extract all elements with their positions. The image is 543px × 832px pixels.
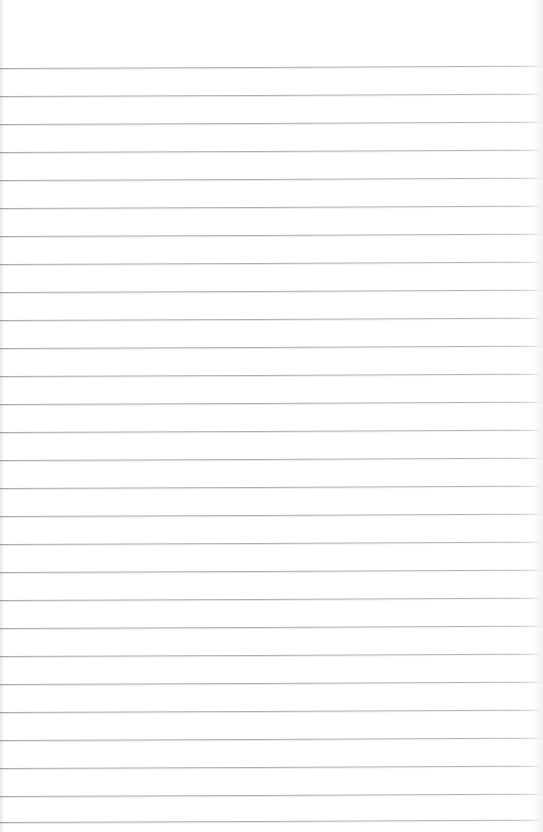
rule-line <box>0 150 543 153</box>
rule-line <box>0 570 543 573</box>
rule-line <box>0 514 543 517</box>
rule-line <box>0 542 543 545</box>
rule-line <box>0 290 543 293</box>
rule-line <box>0 766 543 769</box>
rule-line <box>0 66 543 69</box>
rule-line <box>0 346 543 349</box>
rule-line <box>0 820 543 823</box>
rule-line <box>0 738 543 741</box>
rule-line <box>0 682 543 685</box>
rule-line <box>0 94 543 97</box>
rule-line <box>0 318 543 321</box>
rule-line <box>0 374 543 377</box>
rule-line <box>0 206 543 209</box>
rule-line <box>0 598 543 601</box>
rule-line <box>0 234 543 237</box>
rule-line <box>0 122 543 125</box>
rule-line <box>0 402 543 405</box>
rule-line <box>0 262 543 265</box>
rule-line <box>0 178 543 181</box>
rule-line <box>0 430 543 433</box>
notebook-page <box>0 0 543 832</box>
rule-line <box>0 654 543 657</box>
ruled-lines-layer <box>0 0 543 832</box>
rule-line <box>0 458 543 461</box>
rule-line <box>0 486 543 489</box>
rule-line <box>0 794 543 797</box>
rule-line <box>0 626 543 629</box>
rule-line <box>0 710 543 713</box>
